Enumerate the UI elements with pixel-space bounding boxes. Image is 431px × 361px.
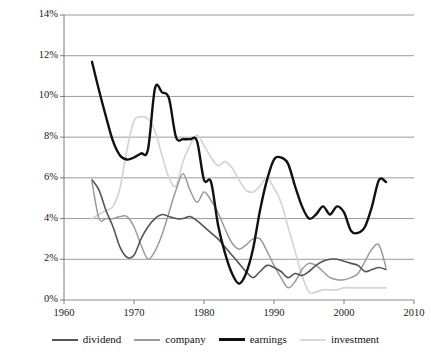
y-tick-label: 2% [10,253,58,264]
x-tick-label: 1960 [37,308,91,319]
x-tick-label: 1970 [107,308,161,319]
legend-label-dividend: dividend [83,334,122,345]
legend-swatch-earnings [219,338,245,341]
y-tick-label: 8% [10,131,58,142]
legend-item-investment[interactable]: investment [300,334,379,345]
legend-swatch-investment [300,339,326,341]
x-tick-label: 1980 [177,308,231,319]
series-line-dividend [92,180,386,278]
legend-label-earnings: earnings [250,334,287,345]
y-tick-label: 0% [10,294,58,305]
line-chart: 0%2%4%6%8%10%12%14% 19601970198019902000… [0,0,431,361]
series-line-investment [92,117,386,294]
x-tick-label: 1990 [247,308,301,319]
series-line-company [92,174,386,288]
legend-item-company[interactable]: company [134,334,205,345]
x-tick-label: 2010 [387,308,431,319]
y-tick-label: 12% [10,50,58,61]
legend-label-investment: investment [331,334,379,345]
x-tick-label: 2000 [317,308,371,319]
legend-item-earnings[interactable]: earnings [219,334,287,345]
chart-legend: dividendcompanyearningsinvestment [0,334,431,345]
y-tick-label: 14% [10,9,58,20]
legend-label-company: company [165,334,205,345]
gridlines [64,15,414,300]
legend-item-dividend[interactable]: dividend [52,334,122,345]
y-tick-label: 4% [10,213,58,224]
legend-swatch-dividend [52,339,78,341]
y-tick-label: 6% [10,172,58,183]
y-tick-label: 10% [10,90,58,101]
legend-swatch-company [134,339,160,341]
